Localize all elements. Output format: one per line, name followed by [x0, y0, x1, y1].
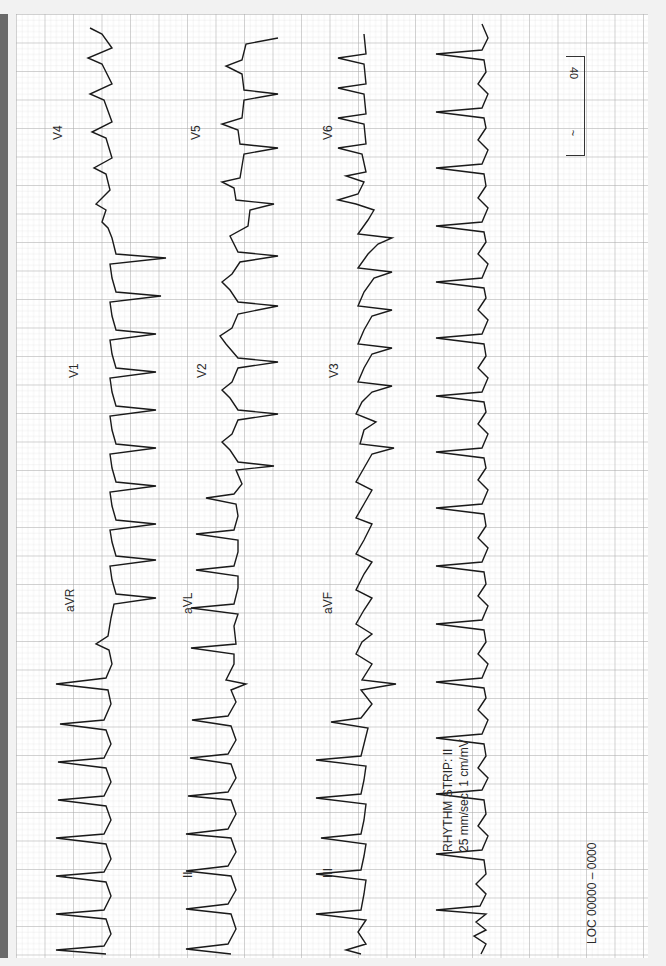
lead-label-avf: aVF: [322, 592, 334, 614]
lead-label-v2: V2: [196, 363, 208, 378]
ecg-paper: I aVR V1 V4 II aVL V2 V5 III aVF V3 V6 R…: [16, 14, 648, 958]
rhythm-strip-title: RHYTHM STRIP: II: [442, 749, 454, 852]
calibration-box: 40 ~: [566, 56, 585, 156]
lead-label-ii: II: [182, 871, 194, 878]
lead-label-v5: V5: [190, 125, 202, 140]
location-label: LOC 00000 – 0000: [586, 843, 598, 944]
lead-label-v4: V4: [52, 125, 64, 140]
lead-label-avr: aVR: [64, 589, 76, 612]
ecg-grid-and-traces: [16, 14, 648, 958]
lead-label-v1: V1: [68, 363, 80, 378]
lead-label-i: I: [56, 875, 68, 878]
calibration-bottom: ~: [567, 130, 579, 136]
scan-edge-bar: [0, 14, 8, 958]
lead-label-v6: V6: [322, 125, 334, 140]
lead-label-v3: V3: [328, 363, 340, 378]
rhythm-strip-settings: 25 mm/sec; 1 cm/mV: [458, 739, 470, 852]
calibration-top: 40: [568, 67, 580, 79]
lead-label-iii: III: [322, 868, 334, 878]
lead-label-avl: aVL: [182, 593, 194, 614]
